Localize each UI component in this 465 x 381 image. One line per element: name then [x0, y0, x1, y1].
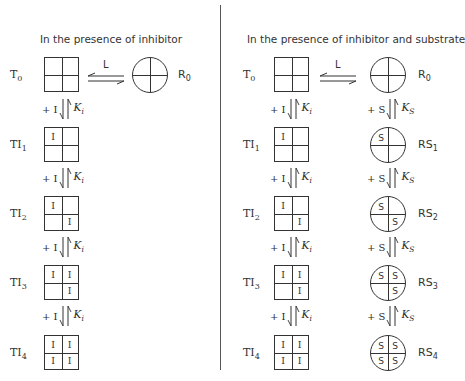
- site-cell: I: [292, 266, 309, 283]
- right-substrate-binding-step: + SKS: [367, 96, 414, 122]
- site-cell: I: [62, 266, 79, 283]
- step-constant: Ki: [302, 101, 312, 116]
- site-cell: I: [62, 353, 79, 370]
- step-constant: KS: [401, 239, 414, 254]
- step-reagent: + I: [270, 242, 286, 253]
- site-cell: S: [388, 283, 405, 300]
- site-cell: [292, 128, 309, 145]
- left-ti-label: TI3: [10, 276, 27, 291]
- step-reagent: + I: [270, 173, 286, 184]
- right-inhibitor-binding-step: + IKi: [270, 303, 312, 329]
- left-inhibitor-binding-step: + IKi: [42, 96, 84, 122]
- step-reagent: + I: [42, 173, 58, 184]
- site-cell: [388, 145, 405, 162]
- reversible-vertical-arrows-icon: [287, 304, 301, 328]
- site-cell: I: [62, 214, 79, 231]
- right-ti-square: II: [274, 196, 309, 231]
- left-inhibitor-binding-step: + IKi: [42, 165, 84, 191]
- right-substrate-binding-step: + SKS: [367, 165, 414, 191]
- right-ti-label: TI3: [243, 276, 260, 291]
- reversible-vertical-arrows-icon: [59, 97, 73, 121]
- site-cell: S: [371, 266, 388, 283]
- site-cell: [45, 283, 62, 300]
- right-rs-circle: SSS: [370, 265, 406, 301]
- reversible-vertical-arrows-icon: [386, 235, 400, 259]
- site-cell: I: [45, 266, 62, 283]
- right-r0-label: R0: [418, 68, 431, 83]
- site-cell: I: [45, 197, 62, 214]
- step-constant: KS: [401, 170, 414, 185]
- right-rs-circle: SSSS: [370, 335, 406, 371]
- site-cell: I: [275, 266, 292, 283]
- right-substrate-binding-step: + SKS: [367, 303, 414, 329]
- site-cell: [275, 283, 292, 300]
- site-cell: S: [371, 128, 388, 145]
- right-inhibitor-binding-step: + IKi: [270, 96, 312, 122]
- site-cell: [275, 145, 292, 162]
- site-cell: I: [292, 336, 309, 353]
- left-t0-label: T0: [10, 68, 22, 83]
- right-r0-circle: [370, 57, 406, 93]
- reversible-vertical-arrows-icon: [287, 97, 301, 121]
- right-inhibitor-binding-step: + IKi: [270, 165, 312, 191]
- left-ti-label: TI4: [10, 346, 27, 361]
- right-ti-square: IIII: [274, 335, 309, 370]
- right-ti-label: TI2: [243, 207, 260, 222]
- reversible-vertical-arrows-icon: [59, 304, 73, 328]
- step-reagent: + S: [367, 311, 385, 322]
- right-ti-square: I: [274, 127, 309, 162]
- site-cell: I: [275, 128, 292, 145]
- right-t0-square: [274, 57, 309, 92]
- reversible-vertical-arrows-icon: [386, 166, 400, 190]
- reversible-vertical-arrows-icon: [287, 235, 301, 259]
- right-equilibrium-label: L: [335, 59, 341, 70]
- site-cell: I: [292, 283, 309, 300]
- site-cell: S: [371, 197, 388, 214]
- site-cell: [62, 197, 79, 214]
- site-cell: [275, 214, 292, 231]
- site-cell: S: [371, 353, 388, 370]
- right-ti-square: III: [274, 265, 309, 300]
- site-cell: [371, 214, 388, 231]
- step-reagent: + S: [367, 104, 385, 115]
- step-reagent: + I: [270, 311, 286, 322]
- step-reagent: + S: [367, 242, 385, 253]
- reversible-vertical-arrows-icon: [59, 235, 73, 259]
- site-cell: S: [388, 266, 405, 283]
- site-cell: I: [45, 128, 62, 145]
- site-cell: I: [45, 336, 62, 353]
- right-t0-label: T0: [243, 68, 255, 83]
- step-reagent: + I: [42, 104, 58, 115]
- reversible-vertical-arrows-icon: [386, 97, 400, 121]
- reversible-vertical-arrows-icon: [386, 304, 400, 328]
- site-cell: I: [275, 197, 292, 214]
- left-r0-circle: [132, 57, 168, 93]
- step-constant: Ki: [302, 239, 312, 254]
- left-inhibitor-binding-step: + IKi: [42, 303, 84, 329]
- step-constant: KS: [401, 101, 414, 116]
- right-rs-circle: SS: [370, 196, 406, 232]
- right-rs-label: RS3: [418, 276, 438, 291]
- right-rs-circle: S: [370, 127, 406, 163]
- left-panel-title: In the presence of inhibitor: [40, 33, 182, 45]
- step-constant: Ki: [74, 308, 84, 323]
- right-rs-label: RS1: [418, 138, 438, 153]
- step-reagent: + S: [367, 173, 385, 184]
- step-constant: Ki: [302, 308, 312, 323]
- site-cell: S: [388, 336, 405, 353]
- right-ti-label: TI1: [243, 138, 260, 153]
- step-constant: Ki: [74, 239, 84, 254]
- site-cell: [62, 145, 79, 162]
- site-cell: [45, 214, 62, 231]
- site-cell: I: [62, 336, 79, 353]
- site-cell: [62, 128, 79, 145]
- right-inhibitor-binding-step: + IKi: [270, 234, 312, 260]
- left-ti-square: IIII: [44, 335, 79, 370]
- right-ti-label: TI4: [243, 346, 260, 361]
- step-reagent: + I: [42, 311, 58, 322]
- left-ti-square: I: [44, 127, 79, 162]
- step-constant: Ki: [302, 170, 312, 185]
- site-cell: S: [388, 214, 405, 231]
- site-cell: [388, 197, 405, 214]
- site-cell: S: [371, 336, 388, 353]
